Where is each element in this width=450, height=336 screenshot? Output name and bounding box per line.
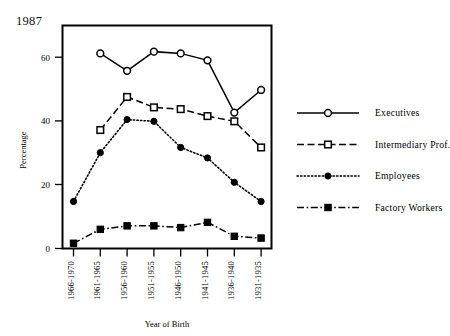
legend-label: Employees (375, 170, 420, 181)
data-point-marker (231, 233, 237, 239)
x-category-label: 1961-1965 (92, 261, 102, 300)
data-point-marker (178, 224, 184, 230)
data-point-marker (258, 144, 265, 151)
data-point-marker (178, 144, 184, 150)
x-axis-ticks (74, 249, 262, 257)
data-point-marker (97, 127, 104, 134)
legend-label: Executives (375, 107, 420, 118)
legend-marker (325, 204, 331, 210)
y-axis-ticks: 0 20 40 60 (41, 53, 63, 254)
data-point-marker (70, 198, 76, 204)
y-tick-label: 20 (41, 180, 51, 190)
legend-entry: Factory Workers (297, 202, 443, 213)
x-axis-title: Year of Birth (145, 319, 190, 329)
data-point-marker (151, 104, 158, 111)
chart-figure: 1987 Percentage Year of Birth 0 20 40 60 (0, 0, 450, 336)
x-category-label: 1946-1950 (173, 261, 183, 300)
data-point-marker (97, 226, 103, 232)
data-point-marker (258, 235, 264, 241)
data-point-marker (204, 219, 210, 225)
legend-entry: Employees (297, 170, 420, 181)
chart-legend: ExecutivesIntermediary Prof.EmployeesFac… (297, 107, 450, 212)
data-point-marker (70, 240, 76, 246)
legend-label: Intermediary Prof. (375, 139, 450, 150)
y-tick-label: 60 (41, 53, 51, 63)
y-tick-label: 0 (46, 244, 51, 254)
x-category-label: 1941-1945 (200, 261, 210, 300)
data-point-marker (204, 155, 210, 161)
legend-marker (325, 173, 331, 179)
data-point-marker (177, 106, 184, 113)
plot-frame (63, 26, 272, 249)
data-point-marker (97, 50, 104, 57)
legend-marker (325, 110, 332, 117)
data-point-marker (151, 118, 157, 124)
data-point-marker (258, 87, 265, 94)
x-category-label: 1956-1960 (119, 261, 129, 300)
data-point-marker (124, 223, 130, 229)
data-point-marker (177, 50, 184, 57)
data-point-marker (124, 94, 131, 101)
x-category-label: 1966-1970 (66, 261, 76, 300)
x-category-label: 1936-1940 (226, 261, 236, 300)
data-point-marker (204, 113, 211, 120)
legend-label: Factory Workers (375, 202, 443, 213)
y-axis-title: Percentage (18, 131, 28, 169)
x-category-label: 1951-1955 (146, 261, 156, 300)
data-point-marker (231, 109, 238, 116)
y-tick-label: 40 (41, 116, 51, 126)
data-point-marker (231, 118, 238, 125)
line-chart-plot: Percentage Year of Birth 0 20 40 60 (0, 0, 450, 336)
data-point-marker (151, 223, 157, 229)
x-category-label: 1931-1935 (253, 261, 263, 300)
data-point-marker (258, 198, 264, 204)
data-point-marker (124, 116, 130, 122)
legend-entry: Intermediary Prof. (297, 139, 450, 150)
legend-marker (325, 141, 332, 148)
data-point-marker (124, 67, 131, 74)
x-axis-category-labels: 1966-1970 1961-1965 1956-1960 1951-1955 … (66, 261, 264, 300)
data-point-marker (97, 150, 103, 156)
data-point-marker (204, 57, 211, 64)
legend-entry: Executives (297, 107, 420, 118)
data-point-marker (231, 179, 237, 185)
data-point-marker (151, 48, 158, 55)
